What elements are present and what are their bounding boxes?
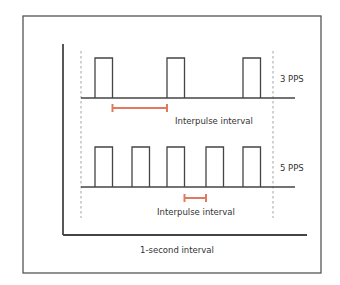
interval-label-3pps: Interpulse interval xyxy=(175,116,253,126)
rate-label-3pps: 3 PPS xyxy=(280,74,304,84)
row-3pps: 3 PPS Interpulse interval xyxy=(81,58,304,126)
interval-label-5pps: Interpulse interval xyxy=(157,207,235,217)
interpulse-marker-3pps xyxy=(113,104,168,112)
pulse xyxy=(95,147,113,187)
pulse xyxy=(95,58,113,98)
pulse xyxy=(206,147,224,187)
x-axis-label: 1-second interval xyxy=(140,245,214,255)
pulse xyxy=(167,147,185,187)
rate-label-5pps: 5 PPS xyxy=(280,163,304,173)
pulse xyxy=(132,147,150,187)
pulse xyxy=(243,58,261,98)
pulse-diagram: 3 PPS Interpulse interval 5 PPS Interpul… xyxy=(0,0,340,285)
interpulse-marker-5pps xyxy=(185,194,207,202)
pulse xyxy=(243,147,261,187)
row-5pps: 5 PPS Interpulse interval xyxy=(81,147,304,217)
pulse xyxy=(167,58,185,98)
